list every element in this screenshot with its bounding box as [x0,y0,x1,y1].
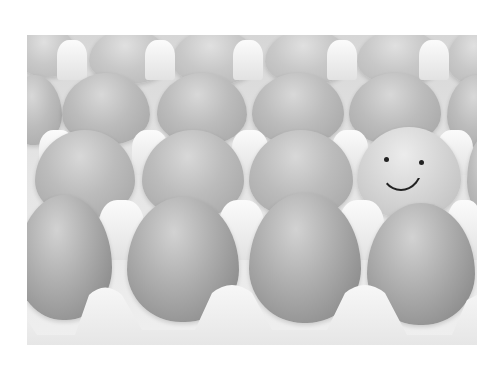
egg-carton-photo [27,35,477,345]
carton-front-edge [27,275,477,345]
carton-post [57,40,87,80]
carton-post [419,40,449,80]
carton-post [327,40,357,80]
carton-post [145,40,175,80]
carton-post [233,40,263,80]
smile-mouth [379,165,423,191]
left-eye [384,157,389,162]
